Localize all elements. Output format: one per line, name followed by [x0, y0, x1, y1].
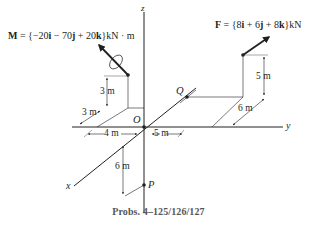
point-p-label: P — [148, 180, 154, 191]
dim-f-y-offset: 5 m — [154, 129, 169, 139]
dim-f-height: 5 m — [256, 72, 271, 82]
x-axis — [74, 88, 196, 186]
x-axis-label: x — [66, 181, 70, 191]
point-q — [185, 95, 189, 99]
dim-m-height: 3 m — [100, 87, 115, 97]
force-vector — [243, 37, 269, 55]
moment-vector — [99, 45, 128, 75]
force-label: F = {8i + 6j + 8k}kN — [215, 20, 302, 30]
y-axis-label: y — [286, 121, 290, 131]
moment-label: M = {−20i − 70j + 20k}kN · m — [8, 31, 135, 41]
origin-label: O — [133, 115, 141, 126]
dim-m-y-offset: 4 m — [104, 129, 119, 139]
figure-caption: Probs. 4–125/126/127 — [0, 206, 317, 217]
dim-p-depth: 6 m — [115, 162, 130, 172]
point-p — [142, 183, 146, 187]
z-axis-label: z — [141, 4, 145, 13]
point-q-label: Q — [176, 86, 184, 97]
dim-f-x-offset: 6 m — [238, 104, 253, 114]
origin-point — [142, 125, 146, 129]
dim-m-x-offset: 3 m — [82, 108, 97, 118]
